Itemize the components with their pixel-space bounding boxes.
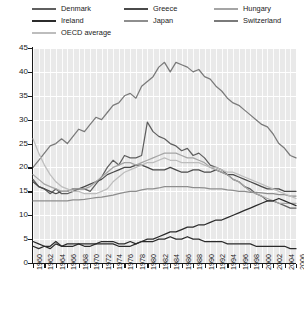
y-tick-5 [28, 239, 33, 240]
x-tick-label-1996: 1996 [242, 254, 249, 270]
x-tick-2002 [273, 264, 274, 268]
x-tick-2000 [262, 264, 263, 268]
y-tick-20 [28, 167, 33, 168]
y-tick-10 [28, 215, 33, 216]
x-tick-1962 [44, 264, 45, 268]
x-tick-1986 [182, 264, 183, 268]
x-tick-1972 [102, 264, 103, 268]
x-tick-label-2006: 2006 [299, 254, 304, 270]
x-tick-1966 [67, 264, 68, 268]
x-tick-label-1972: 1972 [105, 254, 112, 270]
x-tick-label-1980: 1980 [150, 254, 157, 270]
x-tick-1984 [170, 264, 171, 268]
x-tick-1998 [250, 264, 251, 268]
x-tick-label-1974: 1974 [116, 254, 123, 270]
x-tick-2004 [285, 264, 286, 268]
x-tick-1960 [33, 264, 34, 268]
x-tick-1980 [147, 264, 148, 268]
x-tick-label-1986: 1986 [185, 254, 192, 270]
y-tick-30 [28, 120, 33, 121]
x-tick-label-1982: 1982 [162, 254, 169, 270]
x-tick-label-1964: 1964 [59, 254, 66, 270]
y-tick-25 [28, 144, 33, 145]
x-tick-1978 [136, 264, 137, 268]
x-tick-label-2004: 2004 [288, 254, 295, 270]
x-tick-1964 [56, 264, 57, 268]
chart-root: DenmarkIrelandOECD average GreeceJapan H… [0, 0, 304, 316]
x-tick-label-1994: 1994 [230, 254, 237, 270]
x-tick-1996 [239, 264, 240, 268]
y-tick-45 [28, 48, 33, 49]
x-tick-label-1976: 1976 [127, 254, 134, 270]
x-tick-label-1978: 1978 [139, 254, 146, 270]
x-tick-label-2000: 2000 [265, 254, 272, 270]
x-tick-1968 [79, 264, 80, 268]
y-tick-35 [28, 96, 33, 97]
x-tick-1974 [113, 264, 114, 268]
x-tick-label-1966: 1966 [70, 254, 77, 270]
x-tick-label-1992: 1992 [219, 254, 226, 270]
x-tick-label-2002: 2002 [276, 254, 283, 270]
x-tick-1976 [124, 264, 125, 268]
x-tick-1988 [193, 264, 194, 268]
y-tick-15 [28, 191, 33, 192]
x-tick-label-1984: 1984 [173, 254, 180, 270]
x-tick-1994 [227, 264, 228, 268]
x-axis-labels: 1960196219641966196819701972197419761978… [0, 0, 304, 316]
x-tick-1970 [90, 264, 91, 268]
y-tick-40 [28, 72, 33, 73]
x-tick-1990 [205, 264, 206, 268]
x-tick-2006 [296, 264, 297, 268]
x-tick-label-1998: 1998 [253, 254, 260, 270]
x-tick-label-1988: 1988 [196, 254, 203, 270]
x-tick-1982 [159, 264, 160, 268]
x-tick-label-1962: 1962 [47, 254, 54, 270]
x-tick-label-1968: 1968 [82, 254, 89, 270]
x-tick-1992 [216, 264, 217, 268]
x-tick-label-1970: 1970 [93, 254, 100, 270]
x-tick-label-1960: 1960 [36, 254, 43, 270]
x-tick-label-1990: 1990 [208, 254, 215, 270]
